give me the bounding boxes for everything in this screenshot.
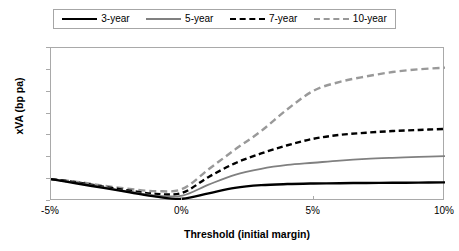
- x-tick-mark: [313, 196, 314, 200]
- series-line-3-year: [51, 179, 445, 199]
- legend-swatch-10-year: [314, 18, 349, 20]
- series-line-10-year: [51, 68, 445, 192]
- plot-lines: [51, 48, 445, 201]
- y-axis-title: xVA (bp pa): [13, 56, 25, 156]
- series-line-7-year: [51, 129, 445, 195]
- y-tick-mark: [46, 134, 50, 135]
- x-tick-label: 5%: [290, 206, 336, 216]
- y-tick-mark: [46, 113, 50, 114]
- series-line-5-year: [51, 156, 445, 196]
- legend-swatch-7-year: [230, 18, 265, 20]
- x-tick-mark: [181, 196, 182, 200]
- chart-legend: 3-year5-year7-year10-year: [53, 9, 396, 29]
- legend-entry-3-year: 3-year: [62, 14, 129, 24]
- x-tick-label: 10%: [421, 206, 459, 216]
- legend-swatch-5-year: [146, 18, 181, 20]
- legend-entry-5-year: 5-year: [146, 14, 213, 24]
- y-tick-mark: [46, 47, 50, 48]
- y-tick-mark: [46, 200, 50, 201]
- x-tick-label: -5%: [27, 206, 73, 216]
- legend-label-7-year: 7-year: [269, 14, 297, 24]
- x-axis-title: Threshold (initial margin): [50, 228, 444, 240]
- x-tick-label: 0%: [158, 206, 204, 216]
- legend-entry-7-year: 7-year: [230, 14, 297, 24]
- y-tick-mark: [46, 178, 50, 179]
- legend-label-10-year: 10-year: [353, 14, 387, 24]
- y-tick-mark: [46, 156, 50, 157]
- legend-entry-10-year: 10-year: [314, 14, 387, 24]
- plot-area: [50, 47, 444, 200]
- legend-label-5-year: 5-year: [185, 14, 213, 24]
- y-tick-mark: [46, 69, 50, 70]
- legend-label-3-year: 3-year: [101, 14, 129, 24]
- legend-swatch-3-year: [62, 18, 97, 20]
- y-tick-mark: [46, 91, 50, 92]
